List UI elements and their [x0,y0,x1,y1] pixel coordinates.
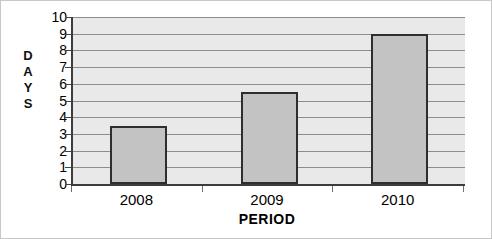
bar-2009 [241,92,298,184]
plot-area [71,17,465,186]
x-axis-tick-labels: 200820092010 [71,191,463,213]
x-axis-tick-label: 2010 [381,191,414,208]
y-axis-title-letter: D [15,48,41,64]
bar-2008 [110,126,167,184]
x-axis-tick-label: 2008 [120,191,153,208]
y-axis-title: D A Y S [15,48,41,112]
bar-2010 [371,34,428,184]
x-axis-tick-mark [463,186,464,192]
x-axis-tick-label: 2009 [250,191,283,208]
y-axis-title-letter: S [15,96,41,112]
bar-chart-screenshot: D A Y S 109876543210 200820092010 PERIOD [0,0,492,239]
y-axis-title-letter: Y [15,80,41,96]
bars-layer [73,17,465,184]
y-axis-title-letter: A [15,64,41,80]
x-axis-title: PERIOD [71,211,463,227]
